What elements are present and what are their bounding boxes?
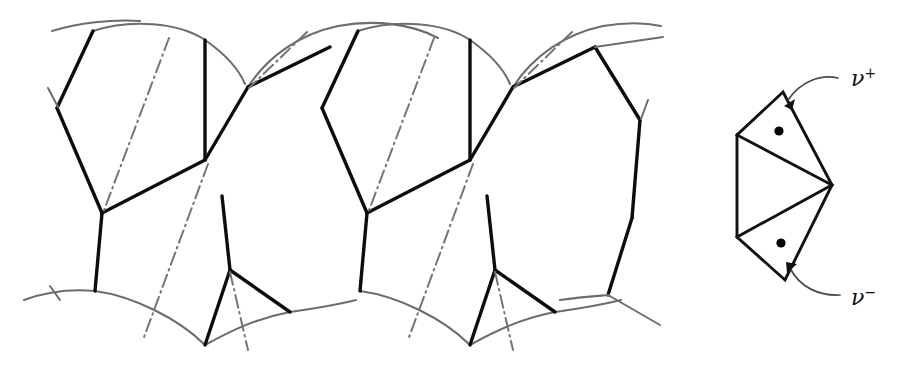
nu-minus-dot [776, 238, 785, 247]
nu-plus-superscript: + [864, 65, 876, 81]
figure-background [0, 0, 922, 369]
nu-plus-dot [774, 126, 783, 135]
figure-canvas: ν+ ν− [0, 0, 922, 369]
nu-plus-symbol: ν [851, 66, 864, 91]
figure-root: ν+ ν− [0, 0, 922, 369]
nu-minus-symbol: ν [851, 285, 864, 310]
nu-minus-superscript: − [864, 284, 876, 300]
